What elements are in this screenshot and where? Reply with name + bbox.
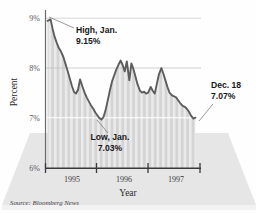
annotation-last-line1: Dec. 18: [211, 80, 241, 90]
y-tick-label-9: 9%: [29, 14, 40, 23]
y-tick-label-6: 6%: [29, 164, 40, 173]
x-tick-label-1995: 1995: [64, 175, 80, 184]
annotation-high-line2: 9.15%: [76, 36, 101, 46]
x-axis-title: Year: [119, 188, 137, 198]
chart-figure: 9% 8% 7% 6% Percent 1995 1996 1997 Year …: [0, 0, 256, 213]
y-tick-label-7: 7%: [29, 114, 40, 123]
annotation-low-line2: 7.03%: [98, 143, 123, 153]
x-tick-label-1996: 1996: [116, 175, 132, 184]
source-note: Source: Bloomberg News: [10, 199, 79, 206]
annotation-high-line1: High, Jan.: [76, 25, 117, 35]
x-tick-label-1997: 1997: [168, 175, 184, 184]
y-tick-label-8: 8%: [29, 64, 40, 73]
chart-svg: 9% 8% 7% 6% Percent 1995 1996 1997 Year …: [0, 0, 256, 213]
annotation-low-line1: Low, Jan.: [91, 132, 130, 142]
annotation-last-line2: 7.07%: [211, 91, 236, 101]
y-axis-title: Percent: [9, 77, 19, 106]
